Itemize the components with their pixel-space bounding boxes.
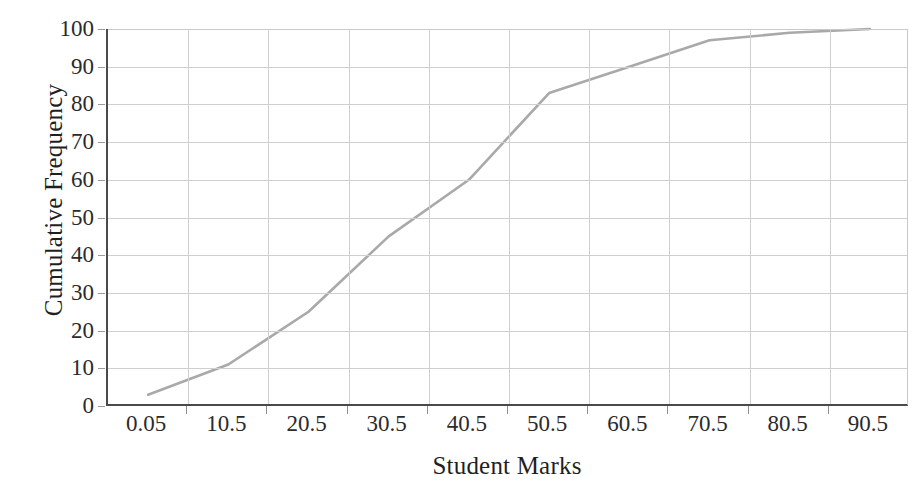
cumulative-frequency-chart: Cumulative Frequency Student Marks 01020… [0, 0, 923, 493]
gridline-horizontal [108, 67, 907, 68]
y-tick-label: 90 [24, 55, 94, 78]
x-tick-label: 70.5 [663, 412, 753, 435]
x-tick-label: 0.05 [101, 412, 191, 435]
gridline-horizontal [108, 180, 907, 181]
y-tick-mark [98, 255, 105, 256]
y-tick-label: 20 [24, 319, 94, 342]
x-tick-label: 40.5 [422, 412, 512, 435]
y-tick-label: 10 [24, 356, 94, 379]
gridline-vertical [429, 29, 430, 404]
x-tick-label: 90.5 [823, 412, 913, 435]
y-tick-label: 0 [24, 394, 94, 417]
y-tick-mark [98, 180, 105, 181]
gridline-vertical [349, 29, 350, 404]
y-tick-label: 30 [24, 281, 94, 304]
y-tick-label: 70 [24, 130, 94, 153]
y-tick-mark [98, 104, 105, 105]
x-axis-title: Student Marks [106, 452, 908, 480]
y-tick-mark [98, 142, 105, 143]
gridline-vertical [509, 29, 510, 404]
y-tick-label: 50 [24, 206, 94, 229]
gridline-horizontal [108, 218, 907, 219]
gridline-vertical [750, 29, 751, 404]
gridline-horizontal [108, 142, 907, 143]
x-tick-label: 10.5 [181, 412, 271, 435]
y-tick-mark [98, 67, 105, 68]
x-tick-label: 80.5 [743, 412, 833, 435]
gridline-horizontal [108, 29, 907, 30]
gridline-vertical [589, 29, 590, 404]
y-tick-mark [98, 293, 105, 294]
gridline-vertical [268, 29, 269, 404]
gridline-horizontal [108, 104, 907, 105]
x-tick-label: 20.5 [262, 412, 352, 435]
gridline-vertical [188, 29, 189, 404]
y-tick-mark [98, 218, 105, 219]
gridline-horizontal [108, 368, 907, 369]
x-tick-label: 50.5 [502, 412, 592, 435]
y-tick-mark [98, 331, 105, 332]
y-tick-mark [98, 368, 105, 369]
gridline-horizontal [108, 255, 907, 256]
gridline-horizontal [108, 293, 907, 294]
y-tick-label: 100 [24, 17, 94, 40]
y-tick-label: 40 [24, 243, 94, 266]
y-tick-label: 60 [24, 168, 94, 191]
plot-area [106, 29, 908, 406]
y-tick-mark [98, 29, 105, 30]
y-tick-mark [98, 406, 105, 407]
gridline-horizontal [108, 331, 907, 332]
x-tick-label: 30.5 [342, 412, 432, 435]
y-tick-label: 80 [24, 92, 94, 115]
gridline-vertical [669, 29, 670, 404]
x-tick-label: 60.5 [582, 412, 672, 435]
gridline-vertical [830, 29, 831, 404]
